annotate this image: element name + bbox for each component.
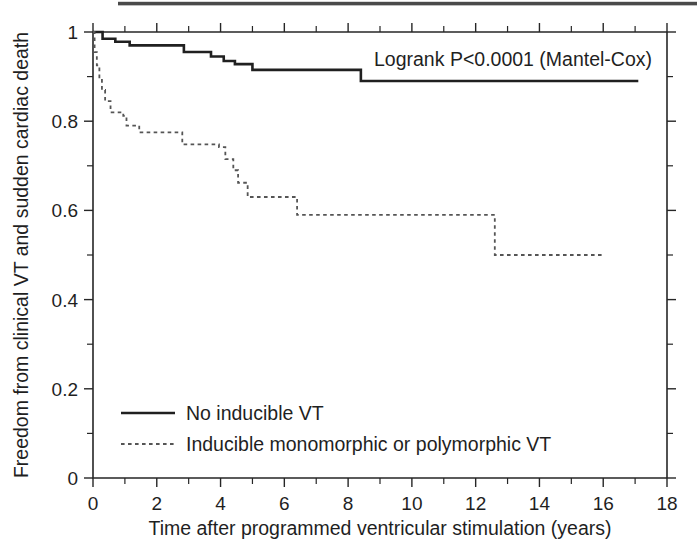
x-tick-label: 6 bbox=[279, 493, 290, 514]
y-tick-label: 0 bbox=[67, 468, 78, 489]
y-tick-label: 0.8 bbox=[52, 111, 78, 132]
y-tick-label: 0.4 bbox=[52, 290, 79, 311]
x-tick-label: 0 bbox=[88, 493, 99, 514]
plot-frame bbox=[93, 32, 667, 478]
y-tick-label: 0.6 bbox=[52, 200, 78, 221]
x-axis-ticks bbox=[93, 23, 667, 487]
x-tick-label: 10 bbox=[401, 493, 422, 514]
axis-lines bbox=[93, 32, 667, 478]
y-axis-tick-labels: 00.20.40.60.81 bbox=[52, 22, 79, 489]
x-tick-label: 2 bbox=[151, 493, 162, 514]
x-tick-label: 14 bbox=[529, 493, 551, 514]
y-axis-title: Freedom from clinical VT and sudden card… bbox=[10, 32, 32, 478]
chart-canvas: 024681012141618 00.20.40.60.81 Logrank P… bbox=[0, 0, 697, 551]
x-tick-label: 8 bbox=[343, 493, 354, 514]
y-tick-label: 1 bbox=[67, 22, 78, 43]
y-tick-label: 0.2 bbox=[52, 379, 78, 400]
x-tick-label: 12 bbox=[465, 493, 486, 514]
x-axis-tick-labels: 024681012141618 bbox=[88, 493, 678, 514]
x-tick-label: 16 bbox=[593, 493, 614, 514]
x-tick-label: 4 bbox=[215, 493, 226, 514]
legend-label-no-inducible-vt: No inducible VT bbox=[186, 402, 324, 424]
x-axis-title: Time after programmed ventricular stimul… bbox=[148, 517, 611, 539]
x-tick-label: 18 bbox=[656, 493, 677, 514]
logrank-annotation: Logrank P<0.0001 (Mantel-Cox) bbox=[374, 48, 652, 70]
legend: No inducible VT Inducible monomorphic or… bbox=[121, 402, 551, 455]
kaplan-meier-figure: 024681012141618 00.20.40.60.81 Logrank P… bbox=[0, 0, 697, 551]
legend-label-inducible-vt: Inducible monomorphic or polymorphic VT bbox=[186, 433, 551, 455]
